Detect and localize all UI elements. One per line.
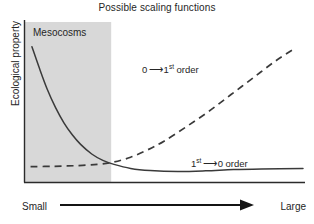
mesocosms-region-label: Mesocosms: [33, 27, 86, 38]
annotation-first-to-zero-order: 1st ⟶ 0 order: [191, 158, 248, 169]
annotation-1-suffix: 0 order: [218, 158, 248, 169]
annotation-0-order-text: order: [174, 64, 199, 75]
annotation-zero-to-first-order: 0 ⟶ 1st order: [142, 64, 199, 75]
x-axis-high-label: Large: [280, 201, 306, 212]
chart-figure: Possible scaling functions Ecological pr…: [0, 0, 314, 224]
size-direction-arrow: [60, 200, 254, 211]
x-axis-low-label: Small: [22, 201, 47, 212]
